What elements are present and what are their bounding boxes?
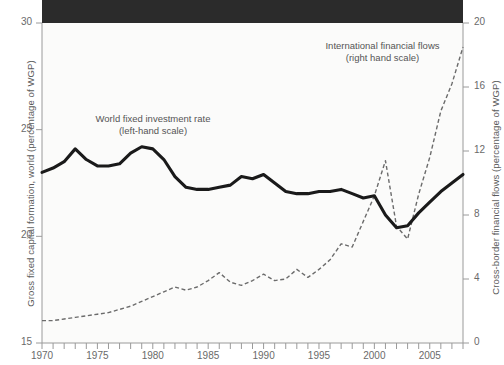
axis-lines: [42, 23, 463, 343]
chart-figure: Gross fixed capital formation, world (pe…: [0, 0, 504, 365]
x-axis-ticks: [42, 343, 463, 349]
y-axis-right-tick-label: 0: [474, 336, 480, 347]
series-world-fixed-investment-rate: [42, 147, 463, 228]
annotation-financial-flows-line1: International financial flows: [300, 40, 465, 52]
x-axis-tick-label: 2005: [410, 350, 450, 361]
series-international-financial-flows: [42, 47, 463, 321]
y-axis-right-tick-label: 8: [474, 208, 480, 219]
x-axis-tick-label: 1995: [299, 350, 339, 361]
annotation-investment-rate-line1: World fixed investment rate: [78, 113, 228, 125]
y-axis-left-title: Gross fixed capital formation, world (pe…: [25, 59, 36, 309]
y-axis-right-ticks: [463, 23, 469, 343]
y-axis-left-tick-label: 30: [10, 16, 32, 27]
annotation-financial-flows-line2: (right hand scale): [300, 52, 465, 64]
y-axis-right-tick-label: 16: [474, 80, 485, 91]
y-axis-left-tick-label: 15: [10, 336, 32, 347]
x-axis-tick-label: 2000: [354, 350, 394, 361]
x-axis-tick-label: 1970: [22, 350, 62, 361]
x-axis-tick-label: 1975: [77, 350, 117, 361]
y-axis-left-tick-label: 25: [10, 123, 32, 134]
y-axis-right-tick-label: 12: [474, 144, 485, 155]
y-axis-right-tick-label: 20: [474, 16, 485, 27]
y-axis-right-title: Cross-border financial flows (percentage…: [490, 63, 501, 313]
x-axis-tick-label: 1980: [133, 350, 173, 361]
x-axis-tick-label: 1990: [244, 350, 284, 361]
annotation-financial-flows: International financial flows (right han…: [300, 40, 465, 64]
annotation-investment-rate-line2: (left-hand scale): [78, 125, 228, 137]
y-axis-left-ticks: [36, 23, 42, 343]
x-axis-tick-label: 1985: [188, 350, 228, 361]
annotation-investment-rate: World fixed investment rate (left-hand s…: [78, 113, 228, 137]
y-axis-left-tick-label: 20: [10, 229, 32, 240]
y-axis-right-tick-label: 4: [474, 272, 480, 283]
